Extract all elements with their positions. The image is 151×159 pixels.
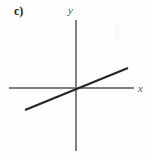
coordinate-plot bbox=[0, 0, 151, 159]
part-label: c) bbox=[14, 4, 23, 18]
y-axis-label: y bbox=[68, 4, 73, 16]
figure-container: c) y x bbox=[0, 0, 151, 159]
x-axis-label: x bbox=[138, 82, 143, 94]
